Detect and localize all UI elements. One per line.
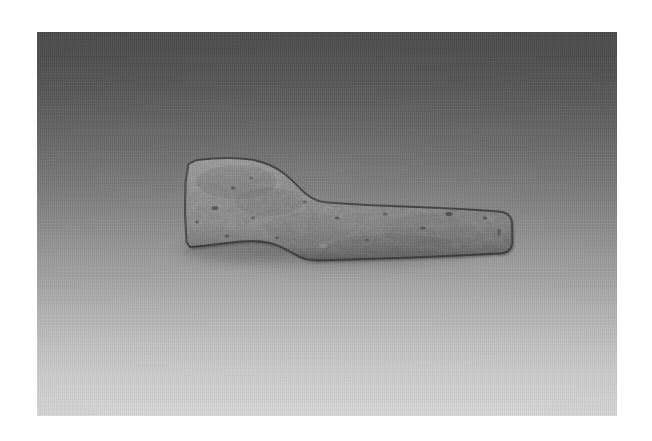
artifact-layer [37, 32, 617, 416]
screenshot-canvas [0, 0, 652, 441]
stone-axe-head [37, 32, 617, 416]
photograph-frame [37, 32, 617, 416]
